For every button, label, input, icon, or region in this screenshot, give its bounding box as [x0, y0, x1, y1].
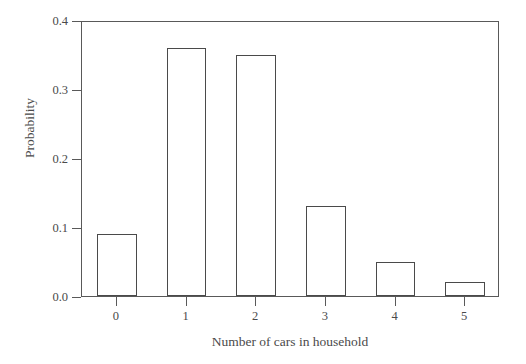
bar-3 — [306, 206, 346, 296]
x-tick-mark-3 — [325, 297, 326, 306]
x-tick-mark-2 — [255, 297, 256, 306]
bar-4 — [376, 262, 416, 297]
x-tick-label-1: 1 — [166, 310, 206, 323]
y-tick-mark-4 — [72, 21, 81, 22]
y-tick-label-4: 0.4 — [52, 15, 68, 28]
x-axis-title: Number of cars in household — [81, 334, 499, 350]
x-axis: 0 1 2 3 4 5 — [0, 297, 526, 364]
x-tick-mark-1 — [186, 297, 187, 306]
y-tick-label-3: 0.3 — [52, 84, 68, 97]
x-tick-mark-5 — [464, 297, 465, 306]
bar-5 — [445, 282, 485, 296]
bar-1 — [167, 48, 207, 296]
x-tick-label-3: 3 — [305, 310, 345, 323]
x-tick-label-5: 5 — [444, 310, 484, 323]
y-tick-mark-1 — [72, 228, 81, 229]
x-tick-label-2: 2 — [235, 310, 275, 323]
y-axis-title: Probability — [22, 73, 38, 183]
bar-chart-figure: 0.0 0.1 0.2 0.3 0.4 Probability 0 1 2 3 … — [0, 0, 526, 364]
y-tick-mark-2 — [72, 159, 81, 160]
x-tick-label-4: 4 — [375, 310, 415, 323]
bar-0 — [97, 234, 137, 296]
bar-2 — [236, 55, 276, 297]
x-tick-mark-0 — [116, 297, 117, 306]
x-tick-mark-4 — [395, 297, 396, 306]
y-tick-mark-3 — [72, 90, 81, 91]
plot-area — [81, 21, 499, 297]
y-tick-label-2: 0.2 — [52, 153, 68, 166]
x-tick-label-0: 0 — [96, 310, 136, 323]
y-tick-label-1: 0.1 — [52, 222, 68, 235]
